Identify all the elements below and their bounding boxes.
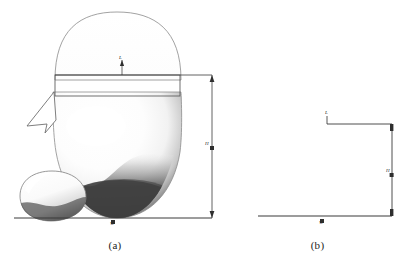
panel-a: L H W (a) xyxy=(0,0,230,266)
dim-label-height-a: H xyxy=(205,141,209,146)
bulb-highlight xyxy=(66,106,126,146)
dim-label-neck-width-b: L xyxy=(325,110,328,115)
spout-outline xyxy=(27,92,56,133)
dim-label-base-width-a: W xyxy=(110,221,114,226)
panel-b-drawing xyxy=(230,0,405,266)
dim-label-height-b: H xyxy=(386,168,390,173)
tick-height-center xyxy=(390,173,394,177)
figure-root: L H W (a) L H W (b) xyxy=(0,0,405,266)
arrow-height-bottom xyxy=(390,209,393,216)
arrow-height-bottom xyxy=(210,211,215,218)
panel-b-caption: (b) xyxy=(230,239,405,251)
arrow-height-top xyxy=(210,75,215,82)
dim-label-neck-width-a: L xyxy=(119,55,122,60)
dome-outline xyxy=(55,12,181,80)
dim-label-base-width-b: W xyxy=(319,220,323,225)
panel-a-caption: (a) xyxy=(0,239,230,251)
panel-a-drawing xyxy=(0,0,230,266)
panel-b: L H W (b) xyxy=(230,0,405,266)
tick-height-center xyxy=(210,146,214,150)
arrow-height-top xyxy=(390,124,393,131)
